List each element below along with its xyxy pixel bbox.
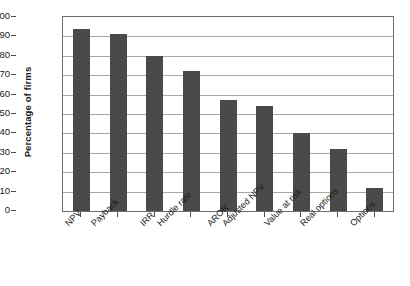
bars-container: [63, 17, 393, 211]
bar[interactable]: [220, 100, 237, 211]
y-tick-mark: [11, 16, 16, 17]
bar[interactable]: [146, 56, 163, 211]
x-tick-mark: [264, 212, 265, 217]
bar-slot: [100, 17, 137, 211]
bar-slot: [173, 17, 210, 211]
y-tick-mark: [11, 132, 16, 133]
y-tick-label: 50: [0, 108, 10, 118]
y-axis: 0102030405060708090100: [0, 0, 62, 286]
y-tick-label: 80: [0, 50, 10, 60]
bar-slot: [63, 17, 100, 211]
y-tick-label: 30: [0, 147, 10, 157]
y-tick-label: 0: [0, 205, 10, 215]
y-tick-label: 70: [0, 69, 10, 79]
bar-slot: [356, 17, 393, 211]
x-tick-mark: [117, 212, 118, 217]
bar-slot: [210, 17, 247, 211]
y-tick-mark: [11, 35, 16, 36]
y-tick-mark: [11, 171, 16, 172]
y-tick-label: 90: [0, 30, 10, 40]
y-tick-mark: [11, 191, 16, 192]
plot-area: [62, 16, 394, 212]
y-tick-mark: [11, 113, 16, 114]
y-tick-mark: [11, 152, 16, 153]
bar[interactable]: [330, 149, 347, 211]
y-tick-label: 60: [0, 89, 10, 99]
bar-slot: [283, 17, 320, 211]
x-tick-mark: [374, 212, 375, 217]
x-tick-mark: [337, 212, 338, 217]
y-tick-label: 100: [0, 11, 10, 21]
y-tick-label: 10: [0, 186, 10, 196]
y-tick-mark: [11, 94, 16, 95]
y-tick-label: 40: [0, 127, 10, 137]
y-tick-label: 20: [0, 166, 10, 176]
bar-slot: [136, 17, 173, 211]
bar-slot: [246, 17, 283, 211]
bar-chart-figure: Percentage of firms 01020304050607080901…: [0, 0, 410, 286]
y-tick-mark: [11, 55, 16, 56]
x-axis: NPVPaybackIRRHurdle rateARORAdjusted NPV…: [62, 212, 394, 286]
bar-slot: [320, 17, 357, 211]
bar[interactable]: [110, 34, 127, 211]
y-tick-mark: [11, 74, 16, 75]
x-tick-mark: [190, 212, 191, 217]
y-tick-mark: [11, 210, 16, 211]
bar[interactable]: [73, 29, 90, 211]
